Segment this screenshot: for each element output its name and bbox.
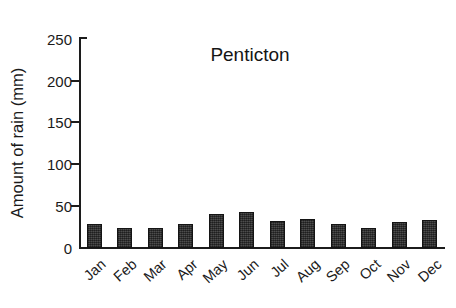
y-tick-label-250: 250 [32, 32, 72, 47]
x-tick-label-aug: Aug [286, 256, 322, 291]
bar-feb [117, 228, 132, 248]
y-tick-label-150: 150 [32, 115, 72, 130]
y-tick-mark-150 [71, 121, 79, 123]
y-axis-label: Amount of rain (mm) [2, 38, 32, 248]
x-tick-label-nov: Nov [378, 256, 414, 291]
y-tick-mark-200 [71, 80, 79, 82]
bar-oct [361, 228, 376, 248]
rainfall-bar-chart: Amount of rain (mm) 250 200 150 100 50 0… [0, 0, 456, 308]
bar-nov [392, 222, 407, 248]
chart-title: Penticton [150, 44, 350, 66]
bar-apr [178, 224, 193, 248]
y-tick-mark-100 [71, 163, 79, 165]
bar-dec [422, 220, 437, 248]
x-tick-label-jan: Jan [73, 256, 109, 291]
x-tick-label-mar: Mar [134, 256, 170, 291]
x-tick-label-oct: Oct [347, 256, 383, 291]
bar-jan [87, 224, 102, 248]
bar-sep [331, 224, 346, 248]
bar-may [209, 214, 224, 248]
bar-jul [270, 221, 285, 248]
y-tick-label-50: 50 [32, 199, 72, 214]
x-tick-label-jun: Jun [225, 256, 261, 291]
bar-jun [239, 212, 254, 248]
x-tick-label-feb: Feb [103, 256, 139, 291]
y-tick-mark-50 [71, 205, 79, 207]
y-tick-label-100: 100 [32, 157, 72, 172]
y-axis-tick-labels: 250 200 150 100 50 0 [30, 0, 72, 308]
x-tick-label-may: May [195, 256, 231, 291]
bar-aug [300, 219, 315, 248]
x-tick-label-dec: Dec [408, 256, 444, 291]
x-axis-tick-labels: JanFebMarAprMayJunJulAugSepOctNovDec [79, 250, 445, 308]
x-tick-label-sep: Sep [317, 256, 353, 291]
x-tick-label-apr: Apr [164, 256, 200, 291]
y-tick-label-200: 200 [32, 74, 72, 89]
x-tick-label-jul: Jul [256, 256, 292, 291]
bar-mar [148, 228, 163, 248]
bars-layer [79, 38, 445, 248]
y-tick-label-0: 0 [32, 241, 72, 256]
